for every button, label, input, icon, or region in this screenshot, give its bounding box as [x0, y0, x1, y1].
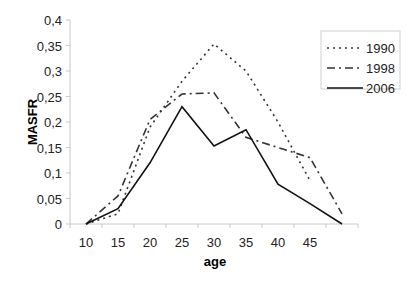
y-tick-label: 0,1: [44, 166, 62, 181]
y-tick-label: 0,3: [44, 64, 62, 79]
y-tick-label: 0,2: [44, 115, 62, 130]
legend-label-1998: 1998: [366, 61, 395, 76]
x-tick-label: 15: [111, 235, 125, 250]
series-line-2006: [86, 107, 342, 224]
x-tick-label: 35: [239, 235, 253, 250]
y-tick-label: 0,35: [37, 39, 62, 54]
x-axis-title: age: [204, 254, 226, 269]
legend-label-2006: 2006: [366, 81, 395, 96]
legend-label-1990: 1990: [366, 41, 395, 56]
x-tick-label: 30: [207, 235, 221, 250]
x-axis: 1015202530354045: [70, 224, 358, 250]
series-line-1990: [86, 44, 310, 224]
x-tick-label: 40: [271, 235, 285, 250]
y-tick-label: 0,15: [37, 141, 62, 156]
y-tick-label: 0,25: [37, 90, 62, 105]
line-chart: 00,050,10,150,20,250,30,350,4 1015202530…: [0, 0, 413, 285]
series-line-1998: [86, 93, 342, 224]
x-tick-label: 20: [143, 235, 157, 250]
y-tick-label: 0,4: [44, 13, 62, 28]
x-tick-label: 25: [175, 235, 189, 250]
y-tick-label: 0,05: [37, 192, 62, 207]
x-tick-label: 45: [303, 235, 317, 250]
series-lines: [86, 44, 342, 224]
y-axis-title: MASFR: [25, 98, 40, 145]
y-axis: 00,050,10,150,20,250,30,350,4: [37, 13, 70, 232]
y-tick-label: 0: [55, 217, 62, 232]
legend: 1990 1998 2006: [321, 31, 400, 96]
x-tick-label: 10: [79, 235, 93, 250]
